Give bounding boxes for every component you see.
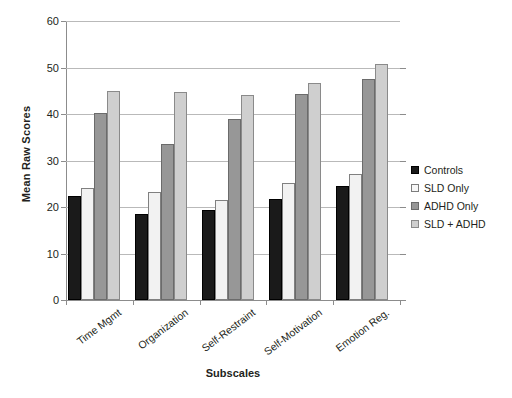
y-axis-title: Mean Raw Scores [20, 74, 32, 234]
bar [308, 83, 321, 300]
bar [68, 196, 81, 300]
y-tick-label: 10 [47, 248, 59, 260]
bar [349, 174, 362, 300]
x-tick-mark [200, 300, 201, 305]
bar-group [336, 21, 388, 300]
x-tick-mark [133, 300, 134, 305]
bar [295, 94, 308, 300]
bar [282, 183, 295, 300]
bar [336, 186, 349, 300]
bar [215, 200, 228, 300]
legend-item: Controls [411, 161, 486, 179]
y-tick-label: 50 [47, 62, 59, 74]
y-tick-mark [61, 161, 66, 162]
bar-group [135, 21, 187, 300]
bar [375, 64, 388, 300]
legend: ControlsSLD OnlyADHD OnlySLD + ADHD [411, 161, 486, 233]
bar [228, 119, 241, 300]
x-category-label: Emotion Reg. [333, 306, 391, 354]
x-category-label: Self-Restraint [199, 306, 257, 354]
y-tick-label: 30 [47, 155, 59, 167]
y-tick-label: 40 [47, 108, 59, 120]
x-axis-title: Subscales [66, 367, 400, 379]
bar [174, 92, 187, 300]
x-tick-mark [400, 300, 401, 305]
bar [107, 91, 120, 300]
legend-label: ADHD Only [424, 200, 478, 212]
y-tick-label: 20 [47, 201, 59, 213]
bar [135, 214, 148, 300]
bar-group [269, 21, 321, 300]
bar-group [202, 21, 254, 300]
legend-label: SLD Only [424, 182, 469, 194]
x-tick-mark [333, 300, 334, 305]
bar [161, 144, 174, 300]
legend-swatch-icon [411, 202, 419, 210]
legend-item: ADHD Only [411, 197, 486, 215]
bar [362, 79, 375, 300]
y-tick-mark [61, 207, 66, 208]
y-tick-mark [61, 68, 66, 69]
x-tick-mark [266, 300, 267, 305]
x-category-label: Self-Motivation [261, 306, 324, 357]
y-tick-label: 0 [53, 294, 59, 306]
legend-label: SLD + ADHD [424, 218, 486, 230]
x-category-label: Organization [136, 306, 191, 351]
bar [148, 192, 161, 300]
bar [202, 210, 215, 300]
bar-group [68, 21, 120, 300]
x-category-label: Time Mgmt [75, 306, 124, 347]
y-tick-label: 60 [47, 15, 59, 27]
y-tick-mark-right [400, 161, 406, 162]
bar-chart-figure: Mean Raw Scores 0102030405060 Time MgmtO… [0, 0, 512, 398]
bar [81, 188, 94, 300]
bar [269, 199, 282, 300]
y-tick-mark [61, 254, 66, 255]
y-tick-mark [61, 114, 66, 115]
bar [94, 113, 107, 300]
y-tick-mark-right [400, 114, 406, 115]
y-tick-mark-right [400, 207, 406, 208]
y-tick-mark [61, 21, 66, 22]
y-tick-mark-right [400, 254, 406, 255]
x-tick-mark [66, 300, 67, 305]
legend-swatch-icon [411, 166, 419, 174]
legend-item: SLD Only [411, 179, 486, 197]
legend-item: SLD + ADHD [411, 215, 486, 233]
legend-label: Controls [424, 164, 463, 176]
plot-area: 0102030405060 [66, 21, 400, 300]
x-axis-line [66, 300, 406, 301]
y-tick-mark-right [400, 68, 406, 69]
legend-swatch-icon [411, 184, 419, 192]
bar [241, 95, 254, 300]
legend-swatch-icon [411, 220, 419, 228]
